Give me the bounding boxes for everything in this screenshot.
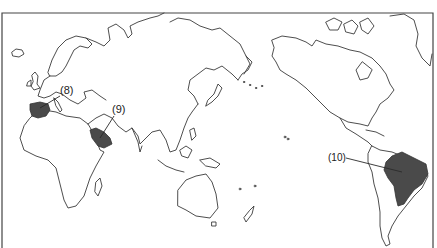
new-zealand-outline (244, 206, 254, 222)
region-9-saudi-arabia (90, 128, 112, 148)
siberia-coast (170, 18, 252, 80)
iceland-outline (12, 49, 24, 57)
india-outline (132, 128, 142, 152)
label-9: (9) (112, 103, 125, 115)
sumatra-java-outline (158, 160, 184, 172)
tasmania-outline (212, 222, 216, 226)
madagascar-outline (95, 178, 102, 196)
label-9-group: (9) (100, 103, 125, 138)
arctic-island (326, 18, 342, 30)
ireland-outline (27, 80, 31, 86)
australia-outline (178, 174, 218, 218)
greenland-outline (390, 14, 432, 66)
label-10: (10) (328, 152, 346, 163)
label-8: (8) (60, 84, 73, 96)
pacific-island (254, 185, 256, 187)
scandinavia-outline (48, 36, 92, 76)
region-8-iberia (30, 102, 50, 118)
aleutian-island (243, 81, 244, 82)
east-asia-coast (188, 66, 238, 104)
eurasia-north-coast (86, 13, 164, 46)
arctic-island (360, 18, 374, 34)
japan-outline (206, 84, 222, 106)
aleutian-island (249, 84, 250, 85)
caribbean-outline (366, 130, 384, 136)
pacific-island (239, 188, 241, 190)
hudson-bay-outline (356, 62, 372, 80)
aleutian-island (255, 87, 256, 88)
central-america-outline (340, 118, 372, 146)
britain-outline (31, 72, 40, 90)
region-10-brazil (384, 152, 428, 206)
north-america-outline (272, 36, 394, 126)
italy-outline (54, 98, 62, 112)
philippines-outline (190, 128, 196, 140)
arctic-island (344, 20, 358, 34)
world-map: (8) (9) (10) (0, 0, 437, 248)
coastlines (12, 13, 432, 246)
borneo-outline (180, 146, 192, 158)
hawaii-island (287, 138, 289, 140)
hawaii-island (284, 136, 286, 138)
map-canvas: (8) (9) (10) (0, 0, 437, 248)
aleutian-island (261, 85, 262, 86)
new-guinea-outline (200, 158, 220, 168)
africa-outline (20, 110, 104, 208)
